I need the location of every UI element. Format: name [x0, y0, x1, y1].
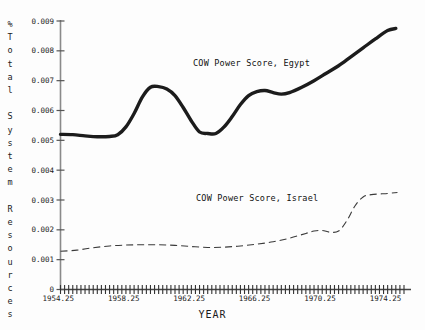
chart-plot-area — [0, 0, 425, 330]
x-tick-label: 1962.25 — [173, 294, 205, 303]
x-tick-label: 1974.25 — [370, 294, 402, 303]
series-annotation-egypt: COW Power Score, Egypt — [193, 58, 310, 68]
x-tick-label: 1954.25 — [43, 294, 75, 303]
chart-container: % T o t a l S y s t e m R e s o u r c e … — [0, 0, 425, 330]
series-annotation-israel: COW Power Score, Israel — [196, 193, 318, 203]
x-axis-title: YEAR — [0, 309, 425, 320]
y-tick-label: 0.001 — [20, 255, 54, 264]
y-tick-label: 0.003 — [20, 196, 54, 205]
x-tick-label: 1958.25 — [108, 294, 140, 303]
y-tick-label: 0.006 — [20, 106, 54, 115]
y-tick-label: 0.005 — [20, 136, 54, 145]
y-tick-label: 0.007 — [20, 76, 54, 85]
y-tick-label: 0.009 — [20, 17, 54, 26]
y-tick-label: 0.008 — [20, 46, 54, 55]
x-tick-label: 1966.25 — [239, 294, 271, 303]
y-tick-label: 0 — [20, 285, 54, 294]
y-tick-label: 0.004 — [20, 166, 54, 175]
x-tick-label: 1970.25 — [304, 294, 336, 303]
series-line-egypt — [61, 28, 396, 136]
y-tick-label: 0.002 — [20, 225, 54, 234]
